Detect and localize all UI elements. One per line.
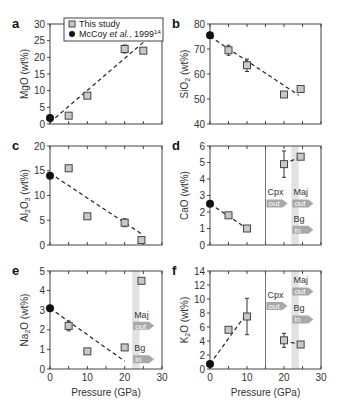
trend-line bbox=[50, 173, 143, 235]
data-point-this-study bbox=[121, 219, 128, 226]
panel-letter: e bbox=[12, 263, 19, 278]
y-tick-label: 15 bbox=[34, 69, 46, 80]
panel-f: 0102030Pressure (GPa)02468101214K2O (wt%… bbox=[172, 263, 327, 398]
y-axis-label: Na2O (wt%) bbox=[19, 294, 31, 347]
annotation-label: Maj bbox=[293, 187, 308, 197]
panel-letter: c bbox=[12, 138, 19, 153]
annotation-label: in bbox=[294, 315, 300, 324]
annotation-label: Bg bbox=[293, 303, 304, 313]
x-tick-label: 10 bbox=[82, 372, 94, 383]
data-point-this-study bbox=[225, 326, 232, 333]
y-tick-label: 12 bbox=[194, 280, 206, 291]
data-point-mccoy bbox=[206, 31, 214, 39]
panel-letter: a bbox=[12, 16, 20, 31]
data-point-this-study bbox=[84, 92, 91, 99]
data-point-this-study bbox=[297, 153, 304, 160]
y-tick-label: 1 bbox=[199, 223, 205, 234]
data-point-mccoy bbox=[46, 304, 54, 312]
plot-frame bbox=[50, 271, 162, 369]
panel-letter: b bbox=[172, 16, 180, 31]
y-tick-label: 2 bbox=[199, 207, 205, 218]
data-point-this-study bbox=[65, 165, 72, 172]
y-tick-label: 50 bbox=[194, 94, 206, 105]
y-tick-label: 80 bbox=[194, 19, 206, 30]
y-tick-label: 2 bbox=[39, 324, 45, 335]
y-tick-label: 70 bbox=[194, 44, 206, 55]
panel-c: 05101520Al2O3 (wt%)c bbox=[12, 138, 162, 251]
data-point-this-study bbox=[281, 161, 288, 168]
y-tick-label: 0 bbox=[39, 240, 45, 251]
y-tick-label: 6 bbox=[199, 322, 205, 333]
trend-line bbox=[50, 42, 143, 122]
annotation-label: Cpx bbox=[268, 290, 285, 300]
y-tick-label: 4 bbox=[199, 174, 205, 185]
annotation-label: Maj bbox=[293, 275, 308, 285]
data-point-this-study bbox=[84, 213, 91, 220]
y-tick-label: 0 bbox=[39, 119, 45, 130]
data-point-this-study bbox=[225, 47, 232, 54]
x-tick-label: 0 bbox=[47, 372, 53, 383]
y-tick-label: 60 bbox=[194, 69, 206, 80]
y-tick-label: 10 bbox=[34, 190, 46, 201]
y-tick-label: 5 bbox=[39, 102, 45, 113]
x-tick-label: 20 bbox=[278, 372, 290, 383]
trend-line bbox=[210, 313, 247, 364]
data-point-mccoy bbox=[206, 200, 214, 208]
panel-e: 0102030Pressure (GPa)012345Na2O (wt%)eMa… bbox=[12, 263, 168, 398]
y-axis-label: K2O (wt%) bbox=[179, 297, 191, 344]
legend: This studyMcCoy et al., 199914 bbox=[64, 18, 163, 41]
data-point-this-study bbox=[65, 322, 72, 329]
data-point-mccoy bbox=[46, 172, 54, 180]
data-point-this-study bbox=[121, 344, 128, 351]
x-tick-label: 0 bbox=[207, 372, 213, 383]
y-tick-label: 2 bbox=[199, 350, 205, 361]
data-point-this-study bbox=[138, 237, 145, 244]
y-axis-label: Al2O3 (wt%) bbox=[19, 169, 31, 222]
panel-d: 0123456CaO (wt%)dCpxoutMajoutBgin bbox=[172, 138, 321, 251]
y-tick-label: 0 bbox=[39, 364, 45, 375]
y-tick-label: 15 bbox=[34, 165, 46, 176]
y-tick-label: 10 bbox=[194, 294, 206, 305]
annotation-label: Bg bbox=[134, 343, 145, 353]
y-axis-label: SiO2 (wt%) bbox=[179, 50, 191, 99]
y-tick-label: 3 bbox=[39, 305, 45, 316]
annotation-label: out bbox=[294, 199, 306, 208]
y-tick-label: 20 bbox=[34, 141, 46, 152]
legend-mccoy-label: McCoy et al., 199914 bbox=[79, 29, 161, 39]
plot-frame bbox=[210, 24, 321, 124]
annotation-label: Bg bbox=[293, 214, 304, 224]
figure: 051015202530MgO (wt%)a4050607080SiO2 (wt… bbox=[0, 0, 340, 418]
y-tick-label: 20 bbox=[34, 52, 46, 63]
data-point-this-study bbox=[297, 341, 304, 348]
x-tick-label: 30 bbox=[156, 372, 168, 383]
panel-b: 4050607080SiO2 (wt%)b bbox=[172, 16, 321, 130]
annotation-label: out bbox=[135, 322, 147, 331]
y-tick-label: 4 bbox=[39, 285, 45, 296]
y-tick-label: 0 bbox=[199, 364, 205, 375]
data-point-this-study bbox=[244, 313, 251, 320]
y-tick-label: 30 bbox=[34, 19, 46, 30]
legend-this-study-label: This study bbox=[79, 19, 121, 29]
plot-frame bbox=[50, 146, 162, 245]
y-tick-label: 5 bbox=[199, 157, 205, 168]
data-point-this-study bbox=[140, 47, 147, 54]
x-tick-label: 30 bbox=[315, 372, 327, 383]
y-tick-label: 5 bbox=[39, 215, 45, 226]
y-tick-label: 40 bbox=[194, 119, 206, 130]
y-tick-label: 14 bbox=[194, 266, 206, 277]
data-point-this-study bbox=[84, 348, 91, 355]
y-tick-label: 10 bbox=[34, 85, 46, 96]
annotation-label: Maj bbox=[134, 310, 149, 320]
y-tick-label: 6 bbox=[199, 141, 205, 152]
annotation-label: Cpx bbox=[268, 187, 285, 197]
data-point-this-study bbox=[65, 112, 72, 119]
y-tick-label: 3 bbox=[199, 190, 205, 201]
annotation-label: in bbox=[135, 355, 141, 364]
y-tick-label: 0 bbox=[199, 240, 205, 251]
y-tick-label: 5 bbox=[39, 266, 45, 277]
y-tick-label: 4 bbox=[199, 336, 205, 347]
x-axis-label: Pressure (GPa) bbox=[231, 387, 300, 398]
data-point-this-study bbox=[297, 86, 304, 93]
data-point-this-study bbox=[281, 91, 288, 98]
y-tick-label: 1 bbox=[39, 344, 45, 355]
